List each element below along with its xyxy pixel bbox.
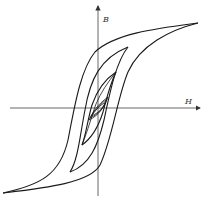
hysteresis-diagram: B H xyxy=(0,0,205,203)
loop-2 xyxy=(70,47,128,172)
h-axis-label: H xyxy=(184,97,193,106)
b-axis-label: B xyxy=(102,15,109,24)
